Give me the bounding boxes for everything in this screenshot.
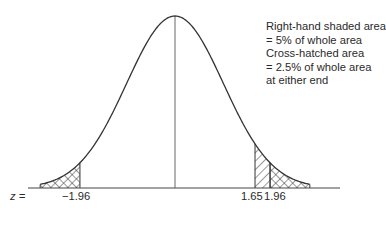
tick-label-1-65: 1.65 — [241, 190, 263, 202]
annotation-text: Right-hand shaded area = 5% of whole are… — [266, 20, 386, 88]
z-axis-label: z = — [10, 190, 25, 202]
annotation-line-2: = 5% of whole area — [266, 34, 386, 48]
annotation-line-5: at either end — [266, 74, 386, 88]
tick-label-neg-1-96: −1.96 — [62, 190, 90, 202]
right-hatched-region — [255, 144, 270, 188]
annotation-line-3: Cross-hatched area — [266, 47, 386, 61]
tick-label-1-96: 1.96 — [264, 190, 286, 202]
annotation-line-4: = 2.5% of whole area — [266, 61, 386, 75]
left-tail-crosshatch — [40, 163, 80, 188]
annotation-line-1: Right-hand shaded area — [266, 20, 386, 34]
right-tail-crosshatch — [270, 163, 310, 188]
